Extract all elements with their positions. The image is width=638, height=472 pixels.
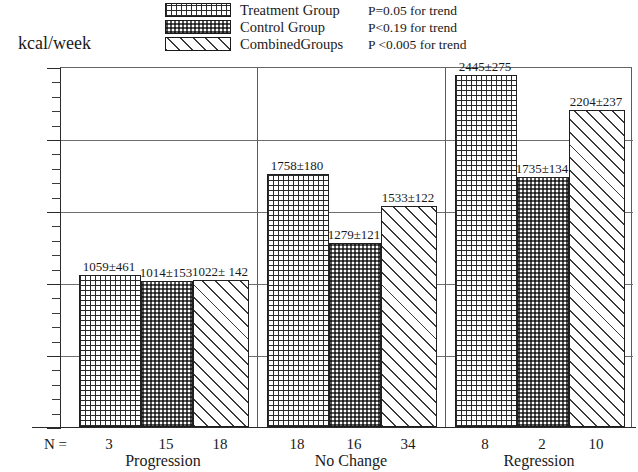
n-count-label: 18 xyxy=(267,436,327,453)
n-count-label: 16 xyxy=(324,436,384,453)
y-axis-minor-tick xyxy=(52,169,61,170)
n-count-label: 18 xyxy=(190,436,250,453)
y-axis-minor-tick xyxy=(52,327,61,328)
y-axis-major-tick xyxy=(47,428,61,429)
y-axis-minor-tick xyxy=(52,370,61,371)
y-axis-minor-tick xyxy=(52,270,61,271)
y-axis-minor-tick xyxy=(52,414,61,415)
y-axis-major-tick xyxy=(47,140,61,141)
y-axis-minor-tick xyxy=(52,111,61,112)
bar-value-label: 2204±237 xyxy=(551,94,638,110)
y-axis-minor-tick xyxy=(52,255,61,256)
bar-treatment xyxy=(267,174,329,427)
bar-value-label: 1533±122 xyxy=(363,190,453,206)
y-axis-minor-tick xyxy=(52,198,61,199)
y-axis-minor-tick xyxy=(52,298,61,299)
y-axis-minor-tick xyxy=(52,82,61,83)
gridline xyxy=(61,140,633,141)
y-axis-minor-tick xyxy=(52,97,61,98)
y-axis-minor-tick xyxy=(52,241,61,242)
n-count-label: 10 xyxy=(566,436,626,453)
x-axis-baseline xyxy=(32,427,636,428)
n-count-label: 15 xyxy=(136,436,196,453)
group-category-label: Regression xyxy=(459,452,619,470)
legend-label-control: Control Group xyxy=(240,20,368,35)
bar-value-label: 1735±134 xyxy=(497,161,587,177)
n-count-label: 8 xyxy=(455,436,515,453)
n-count-label: 3 xyxy=(79,436,139,453)
plot-area xyxy=(60,67,632,427)
bar-control xyxy=(329,243,381,427)
legend: Treatment Group P=0.05 for trend Control… xyxy=(165,2,467,53)
y-axis-major-tick xyxy=(47,284,61,285)
bar-treatment xyxy=(79,275,141,427)
n-count-label: 34 xyxy=(378,436,438,453)
group-category-label: Progression xyxy=(83,452,243,470)
bar-value-label: 2445±275 xyxy=(440,59,530,75)
y-axis-major-tick xyxy=(47,356,61,357)
group-separator xyxy=(445,68,446,428)
bar-value-label: 1279±121 xyxy=(309,227,399,243)
bar-control xyxy=(141,281,193,427)
legend-swatch-treatment-icon xyxy=(165,3,231,17)
y-axis-minor-tick xyxy=(52,154,61,155)
group-separator xyxy=(257,68,258,428)
legend-pvalue-control: P<0.19 for trend xyxy=(368,20,457,35)
bar-chart: Treatment Group P=0.05 for trend Control… xyxy=(0,0,638,472)
legend-item-treatment: Treatment Group P=0.05 for trend xyxy=(165,2,467,18)
legend-label-combined: CombinedGroups xyxy=(240,37,368,52)
y-axis-major-tick xyxy=(47,68,61,69)
bar-treatment xyxy=(455,75,517,427)
bar-value-label: 1022± 142 xyxy=(175,264,265,280)
y-axis-title: kcal/week xyxy=(18,33,91,54)
y-axis-minor-tick xyxy=(52,342,61,343)
bar-control xyxy=(517,177,569,427)
plot-right-border xyxy=(631,68,632,428)
n-count-label: 2 xyxy=(512,436,572,453)
legend-swatch-control-icon xyxy=(165,20,231,34)
group-category-label: No Change xyxy=(271,452,431,470)
bar-value-label: 1758±180 xyxy=(252,158,342,174)
legend-pvalue-combined: P <0.005 for trend xyxy=(368,37,467,52)
y-axis-minor-tick xyxy=(52,399,61,400)
y-axis-minor-tick xyxy=(52,183,61,184)
y-axis-major-tick xyxy=(47,212,61,213)
bar-combined xyxy=(193,280,249,427)
legend-swatch-combined-icon xyxy=(165,37,231,51)
y-axis-minor-tick xyxy=(52,313,61,314)
y-axis-minor-tick xyxy=(52,226,61,227)
bar-combined xyxy=(569,110,625,427)
y-axis-minor-tick xyxy=(52,385,61,386)
legend-label-treatment: Treatment Group xyxy=(240,3,368,18)
y-axis-minor-tick xyxy=(52,126,61,127)
legend-pvalue-treatment: P=0.05 for trend xyxy=(368,3,457,18)
n-prefix-label: N = xyxy=(44,436,67,453)
legend-item-control: Control Group P<0.19 for trend xyxy=(165,19,467,35)
legend-item-combined: CombinedGroups P <0.005 for trend xyxy=(165,36,467,52)
